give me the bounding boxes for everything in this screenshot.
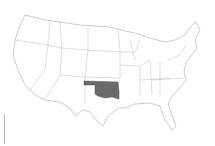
us-outline [13, 15, 200, 130]
edge-line [4, 114, 5, 144]
us-map [0, 0, 215, 146]
